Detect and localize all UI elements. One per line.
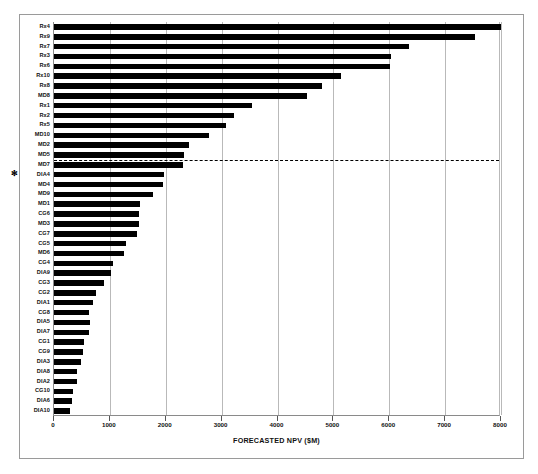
bar-row: CG4 (54, 258, 501, 268)
category-label: MD7 (38, 162, 50, 168)
bar (54, 113, 234, 119)
bar-row: DIA1 (54, 298, 501, 308)
bar-row: MD1 (54, 199, 501, 209)
x-axis-ticks: 010002000300040005000600070008000 (53, 416, 500, 426)
bar-row: Rx4 (54, 22, 501, 32)
x-tick-label: 4000 (270, 422, 284, 428)
category-label: CG7 (38, 231, 50, 237)
category-label: DIA10 (34, 408, 50, 414)
bar-row: Rx10 (54, 71, 501, 81)
category-label: MD10 (35, 132, 50, 138)
bar (54, 211, 139, 217)
category-label: CG10 (35, 388, 50, 394)
category-label: CG5 (38, 241, 50, 247)
bar (54, 64, 390, 70)
category-label: Rx10 (36, 73, 50, 79)
bar (54, 221, 139, 227)
bar-row: Rx1 (54, 101, 501, 111)
bar (54, 162, 183, 168)
bar-row: Rx3 (54, 52, 501, 62)
bar (54, 73, 341, 79)
category-label: Rx3 (39, 53, 50, 59)
category-label: MD8 (38, 93, 50, 99)
bar-row: Rx9 (54, 32, 501, 42)
bar (54, 251, 124, 257)
category-label: CG6 (38, 211, 50, 217)
bar (54, 123, 226, 129)
bar (54, 54, 391, 60)
bar (54, 103, 252, 109)
bar (54, 93, 307, 99)
bar (54, 379, 77, 385)
category-label: MD9 (38, 191, 50, 197)
bar (54, 172, 164, 178)
category-label: DIA6 (37, 398, 50, 404)
x-tick-label: 6000 (381, 422, 395, 428)
category-label: DIA1 (37, 300, 50, 306)
bar (54, 231, 137, 237)
category-label: DIA8 (37, 369, 50, 375)
x-tick-label: 8000 (493, 422, 507, 428)
bar (54, 241, 126, 247)
bar-row: CG9 (54, 347, 501, 357)
category-label: CG3 (38, 280, 50, 286)
x-tick-label: 5000 (325, 422, 339, 428)
bar-row: Rx5 (54, 121, 501, 131)
bar-row: DIA6 (54, 396, 501, 406)
category-label: CG2 (38, 290, 50, 296)
category-label: MD2 (38, 142, 50, 148)
bar-row: CG5 (54, 239, 501, 249)
bar-row: Rx7 (54, 42, 501, 52)
bar-row: DIA5 (54, 318, 501, 328)
bar-row: Rx2 (54, 111, 501, 121)
category-label: DIA5 (37, 319, 50, 325)
bar (54, 290, 96, 296)
x-tick-label: 2000 (158, 422, 172, 428)
bar-row: DIA10 (54, 406, 501, 416)
bar (54, 359, 81, 365)
bar-row: DIA4✻ (54, 170, 501, 180)
bar (54, 201, 140, 207)
bar-row: MD9 (54, 189, 501, 199)
category-label: MD3 (38, 221, 50, 227)
category-label: Rx1 (39, 103, 50, 109)
category-label: CG1 (38, 339, 50, 345)
bar-row: CG7 (54, 229, 501, 239)
bar (54, 300, 93, 306)
category-label: Rx5 (39, 122, 50, 128)
bar (54, 182, 163, 188)
category-label: Rx7 (39, 44, 50, 50)
bar-row: MD3 (54, 219, 501, 229)
category-label: Rx8 (39, 83, 50, 89)
bar-row: Rx6 (54, 61, 501, 71)
category-label: CG8 (38, 310, 50, 316)
bar (54, 349, 83, 355)
bar (54, 44, 409, 50)
x-tick-label: 3000 (214, 422, 228, 428)
bar-row: MD6 (54, 249, 501, 259)
bar (54, 34, 475, 40)
category-label: CG4 (38, 260, 50, 266)
bar-series: Rx4Rx9Rx7Rx3Rx6Rx10Rx8MD8Rx1Rx2Rx5MD10MD… (54, 22, 501, 416)
x-axis-title: FORECASTED NPV ($M) (53, 436, 500, 445)
bar (54, 152, 184, 158)
bar-row: MD8 (54, 91, 501, 101)
bar-row: MD2 (54, 140, 501, 150)
bar-row: DIA2 (54, 377, 501, 387)
bar (54, 280, 104, 286)
category-label: MD5 (38, 152, 50, 158)
bar-row: CG1 (54, 337, 501, 347)
gridline (501, 22, 502, 415)
bar-row: DIA9 (54, 268, 501, 278)
category-label: Rx9 (39, 34, 50, 40)
bar (54, 261, 113, 267)
bar (54, 339, 84, 345)
category-label: Rx2 (39, 113, 50, 119)
bar-row: CG10 (54, 386, 501, 396)
asterisk-marker: ✻ (11, 170, 18, 178)
bar-row: CG8 (54, 308, 501, 318)
bar (54, 142, 189, 148)
bar (54, 24, 501, 30)
bar (54, 389, 73, 395)
category-label: MD1 (38, 201, 50, 207)
